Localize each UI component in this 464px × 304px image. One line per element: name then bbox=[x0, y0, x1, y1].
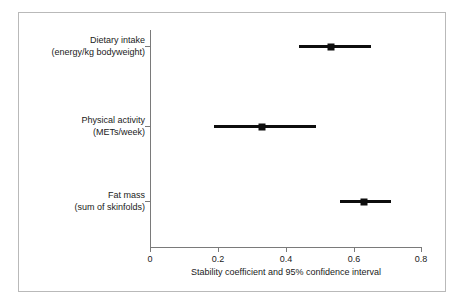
x-tick-mark-4 bbox=[421, 247, 422, 252]
y-tick-mark-physical-activity bbox=[145, 126, 150, 127]
point-estimate-fat-mass bbox=[361, 198, 368, 205]
x-axis-title: Stability coefficient and 95% confidence… bbox=[150, 267, 422, 278]
row-label-line1: Dietary intake bbox=[51, 35, 145, 47]
point-estimate-dietary-intake bbox=[328, 43, 335, 50]
row-label-dietary-intake: Dietary intake (energy/kg bodyweight) bbox=[51, 35, 145, 58]
row-label-line2: (sum of skinfolds) bbox=[74, 202, 145, 214]
x-tick-label-0: 0 bbox=[147, 254, 152, 265]
x-tick-label-4: 0.8 bbox=[415, 254, 428, 265]
row-label-line1: Physical activity bbox=[81, 115, 145, 127]
x-tick-label-1: 0.2 bbox=[212, 254, 225, 265]
plot-area: 0 0.2 0.4 0.6 0.8 Dietary intake (energy… bbox=[0, 0, 464, 304]
y-tick-mark-fat-mass bbox=[145, 201, 150, 202]
row-label-line2: (energy/kg bodyweight) bbox=[51, 47, 145, 59]
x-tick-mark-0 bbox=[150, 247, 151, 252]
y-axis-spine bbox=[150, 30, 151, 247]
point-estimate-physical-activity bbox=[259, 123, 266, 130]
x-tick-mark-1 bbox=[218, 247, 219, 252]
y-tick-mark-dietary-intake bbox=[145, 46, 150, 47]
row-label-physical-activity: Physical activity (METs/week) bbox=[81, 115, 145, 138]
x-tick-label-3: 0.6 bbox=[348, 254, 361, 265]
x-tick-mark-3 bbox=[354, 247, 355, 252]
row-label-line2: (METs/week) bbox=[81, 127, 145, 139]
forest-plot-figure: 0 0.2 0.4 0.6 0.8 Dietary intake (energy… bbox=[0, 0, 464, 304]
x-tick-mark-2 bbox=[286, 247, 287, 252]
row-label-line1: Fat mass bbox=[74, 190, 145, 202]
x-tick-label-2: 0.4 bbox=[280, 254, 293, 265]
row-label-fat-mass: Fat mass (sum of skinfolds) bbox=[74, 190, 145, 213]
ci-bar-dietary-intake bbox=[299, 45, 371, 48]
